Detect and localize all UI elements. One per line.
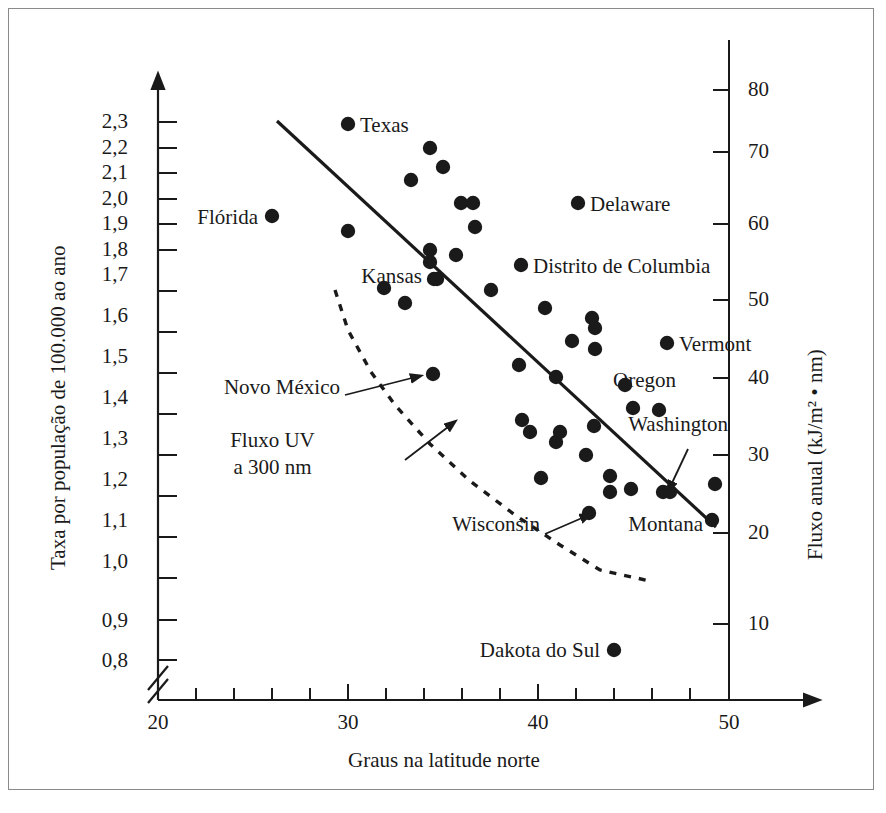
annotation-label-fluxo-uv-line2: a 300 nm [165, 455, 380, 480]
point-label-oregon: Oregon [613, 368, 676, 392]
x-tick-label-40: 40 [508, 712, 568, 733]
y2-axis-title: Fluxo anual (kJ/m² • nm) [803, 349, 828, 560]
y-tick-label-1-8: 1,8 [68, 239, 128, 260]
data-point [585, 311, 599, 325]
data-point [549, 370, 563, 384]
point-label-florida: Flórida [50, 205, 258, 229]
data-point [607, 643, 621, 657]
y-tick-label-1-5: 1,5 [68, 346, 128, 367]
y-axis-title: Taxa por população de 100.000 ao ano [46, 245, 71, 570]
data-point [468, 220, 482, 234]
chart-page: 2,3 2,2 2,1 2,0 1,9 1,8 1,7 1,6 1,5 1,4 … [0, 0, 886, 813]
arrow-washington [672, 449, 688, 483]
data-point [514, 258, 528, 272]
y2-tick-label-10: 10 [748, 613, 808, 634]
y2-tick-label-80: 80 [748, 79, 808, 100]
y-tick-label-1-6: 1,6 [68, 305, 128, 326]
point-label-kansas: Kansas [214, 264, 422, 288]
data-point [404, 173, 418, 187]
y-tick-label-2-1: 2,1 [68, 162, 128, 183]
annotation-label-fluxo-uv-line1: Fluxo UV [165, 428, 380, 453]
data-point [515, 413, 529, 427]
data-point [603, 485, 617, 499]
y2-tick-label-60: 60 [748, 213, 808, 234]
y-tick-label-1-7: 1,7 [68, 264, 128, 285]
y-tick-label-0-8: 0,8 [68, 650, 128, 671]
data-point [565, 334, 579, 348]
y-tick-label-0-9: 0,9 [68, 610, 128, 631]
y2-tick-label-20: 20 [748, 522, 808, 543]
y-tick-label-1-3: 1,3 [68, 428, 128, 449]
data-point [341, 224, 355, 238]
y-axis-right-ticks [713, 90, 729, 624]
arrow-novo-mexico [345, 378, 412, 395]
point-label-distrito-de-columbia: Distrito de Columbia [533, 254, 710, 278]
data-point [663, 485, 677, 499]
x-axis-title: Graus na latitude norte [348, 748, 540, 773]
x-tick-label-50: 50 [699, 712, 759, 733]
x-tick-label-20: 20 [128, 712, 188, 733]
y-tick-label-2-2: 2,2 [68, 137, 128, 158]
y-tick-label-1-1: 1,1 [68, 510, 128, 531]
scatter-plot-canvas [0, 0, 886, 813]
point-label-vermont: Vermont [679, 332, 751, 356]
data-point [705, 513, 719, 527]
data-point [436, 160, 450, 174]
data-point [484, 283, 498, 297]
annotation-arrows [345, 378, 688, 534]
data-point [398, 296, 412, 310]
data-point [449, 248, 463, 262]
data-point [588, 342, 602, 356]
data-point [426, 367, 440, 381]
point-label-texas: Texas [360, 113, 409, 137]
data-point [523, 425, 537, 439]
data-point [660, 336, 674, 350]
y-tick-label-2-3: 2,3 [68, 111, 128, 132]
x-tick-label-30: 30 [318, 712, 378, 733]
data-point [538, 301, 552, 315]
x-axis-ticks [158, 684, 729, 700]
y2-tick-label-30: 30 [748, 444, 808, 465]
y2-tick-label-50: 50 [748, 289, 808, 310]
data-point [423, 255, 437, 269]
data-point [341, 117, 355, 131]
data-point [534, 471, 548, 485]
point-label-delaware: Delaware [590, 192, 670, 216]
y-tick-label-1-2: 1,2 [68, 469, 128, 490]
point-label-dakota-do-sul: Dakota do Sul [290, 638, 600, 662]
data-point [708, 477, 722, 491]
data-point [571, 196, 585, 210]
data-point [579, 448, 593, 462]
data-point [430, 272, 444, 286]
data-point [423, 141, 437, 155]
data-point [603, 469, 617, 483]
data-point [624, 482, 638, 496]
data-point [512, 358, 526, 372]
y-tick-label-1-0: 1,0 [68, 551, 128, 572]
annotation-label-wisconsin: Wisconsin [330, 512, 540, 537]
data-point [265, 209, 279, 223]
data-point [466, 196, 480, 210]
y2-tick-label-70: 70 [748, 141, 808, 162]
y2-tick-label-40: 40 [748, 367, 808, 388]
annotation-label-washington: Washington [560, 412, 728, 437]
annotation-label-novo-mexico: Novo México [115, 375, 340, 400]
